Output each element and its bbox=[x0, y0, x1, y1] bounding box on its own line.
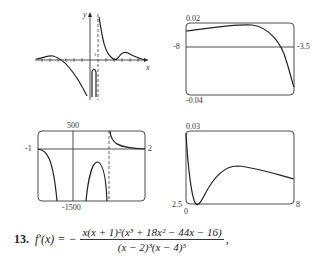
sketch-graph bbox=[35, 12, 148, 100]
exercise-equation: 13. f′(x) = − x(x + 1)²(x³ + 18x² − 44x … bbox=[14, 226, 229, 253]
exercise-number: 13. bbox=[14, 232, 29, 247]
trailing-comma: , bbox=[226, 232, 229, 247]
window-graph-2 bbox=[38, 131, 145, 201]
window-graph-1 bbox=[186, 23, 294, 95]
x-max-label: 2 bbox=[148, 145, 152, 153]
tick-label: 1 bbox=[94, 52, 97, 57]
y-min-label: -0.04 bbox=[186, 97, 203, 105]
fraction: x(x + 1)²(x³ + 18x² − 44x − 16) (x − 2)³… bbox=[80, 226, 223, 253]
x-max-label: 8 bbox=[296, 201, 300, 209]
x-max-label: -3.5 bbox=[297, 43, 310, 51]
x-min-label: 0 bbox=[184, 208, 188, 216]
x-min-label: -1 bbox=[25, 145, 32, 153]
equation-lhs: f′(x) = − bbox=[35, 232, 76, 247]
y-axis-label: y bbox=[83, 11, 87, 19]
denominator: (x − 2)³(x − 4)⁵ bbox=[118, 240, 186, 253]
y-min-label: -1500 bbox=[62, 204, 81, 212]
x-axis-label: x bbox=[146, 64, 150, 72]
x-min-label: -8 bbox=[173, 43, 180, 51]
y-max-label: 0.02 bbox=[186, 15, 200, 23]
y-min-label: 2.5 bbox=[172, 201, 182, 209]
window-graph-3 bbox=[186, 131, 294, 205]
y-max-label: 500 bbox=[67, 122, 79, 130]
y-max-label: 0.03 bbox=[186, 123, 200, 131]
numerator: x(x + 1)²(x³ + 18x² − 44x − 16) bbox=[80, 226, 223, 240]
